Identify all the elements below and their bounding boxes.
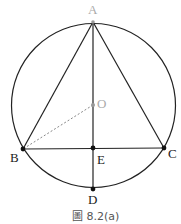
- label-d: D: [88, 192, 97, 207]
- segment-ob-dashed: [23, 105, 93, 149]
- segment-ac: [93, 22, 164, 148]
- segment-ab: [23, 22, 93, 149]
- label-b: B: [10, 150, 19, 165]
- point-e: [91, 146, 96, 151]
- label-e: E: [97, 152, 105, 167]
- label-a: A: [88, 2, 98, 17]
- label-c: C: [168, 146, 177, 161]
- point-c: [162, 146, 167, 151]
- point-d: [91, 187, 96, 192]
- figure-caption: 圖 8.2(a): [72, 210, 119, 223]
- label-o: O: [97, 96, 106, 111]
- geometry-diagram: A O B C E D 圖 8.2(a): [0, 0, 181, 224]
- point-b: [21, 147, 26, 152]
- point-a: [91, 20, 95, 24]
- point-o: [91, 103, 95, 107]
